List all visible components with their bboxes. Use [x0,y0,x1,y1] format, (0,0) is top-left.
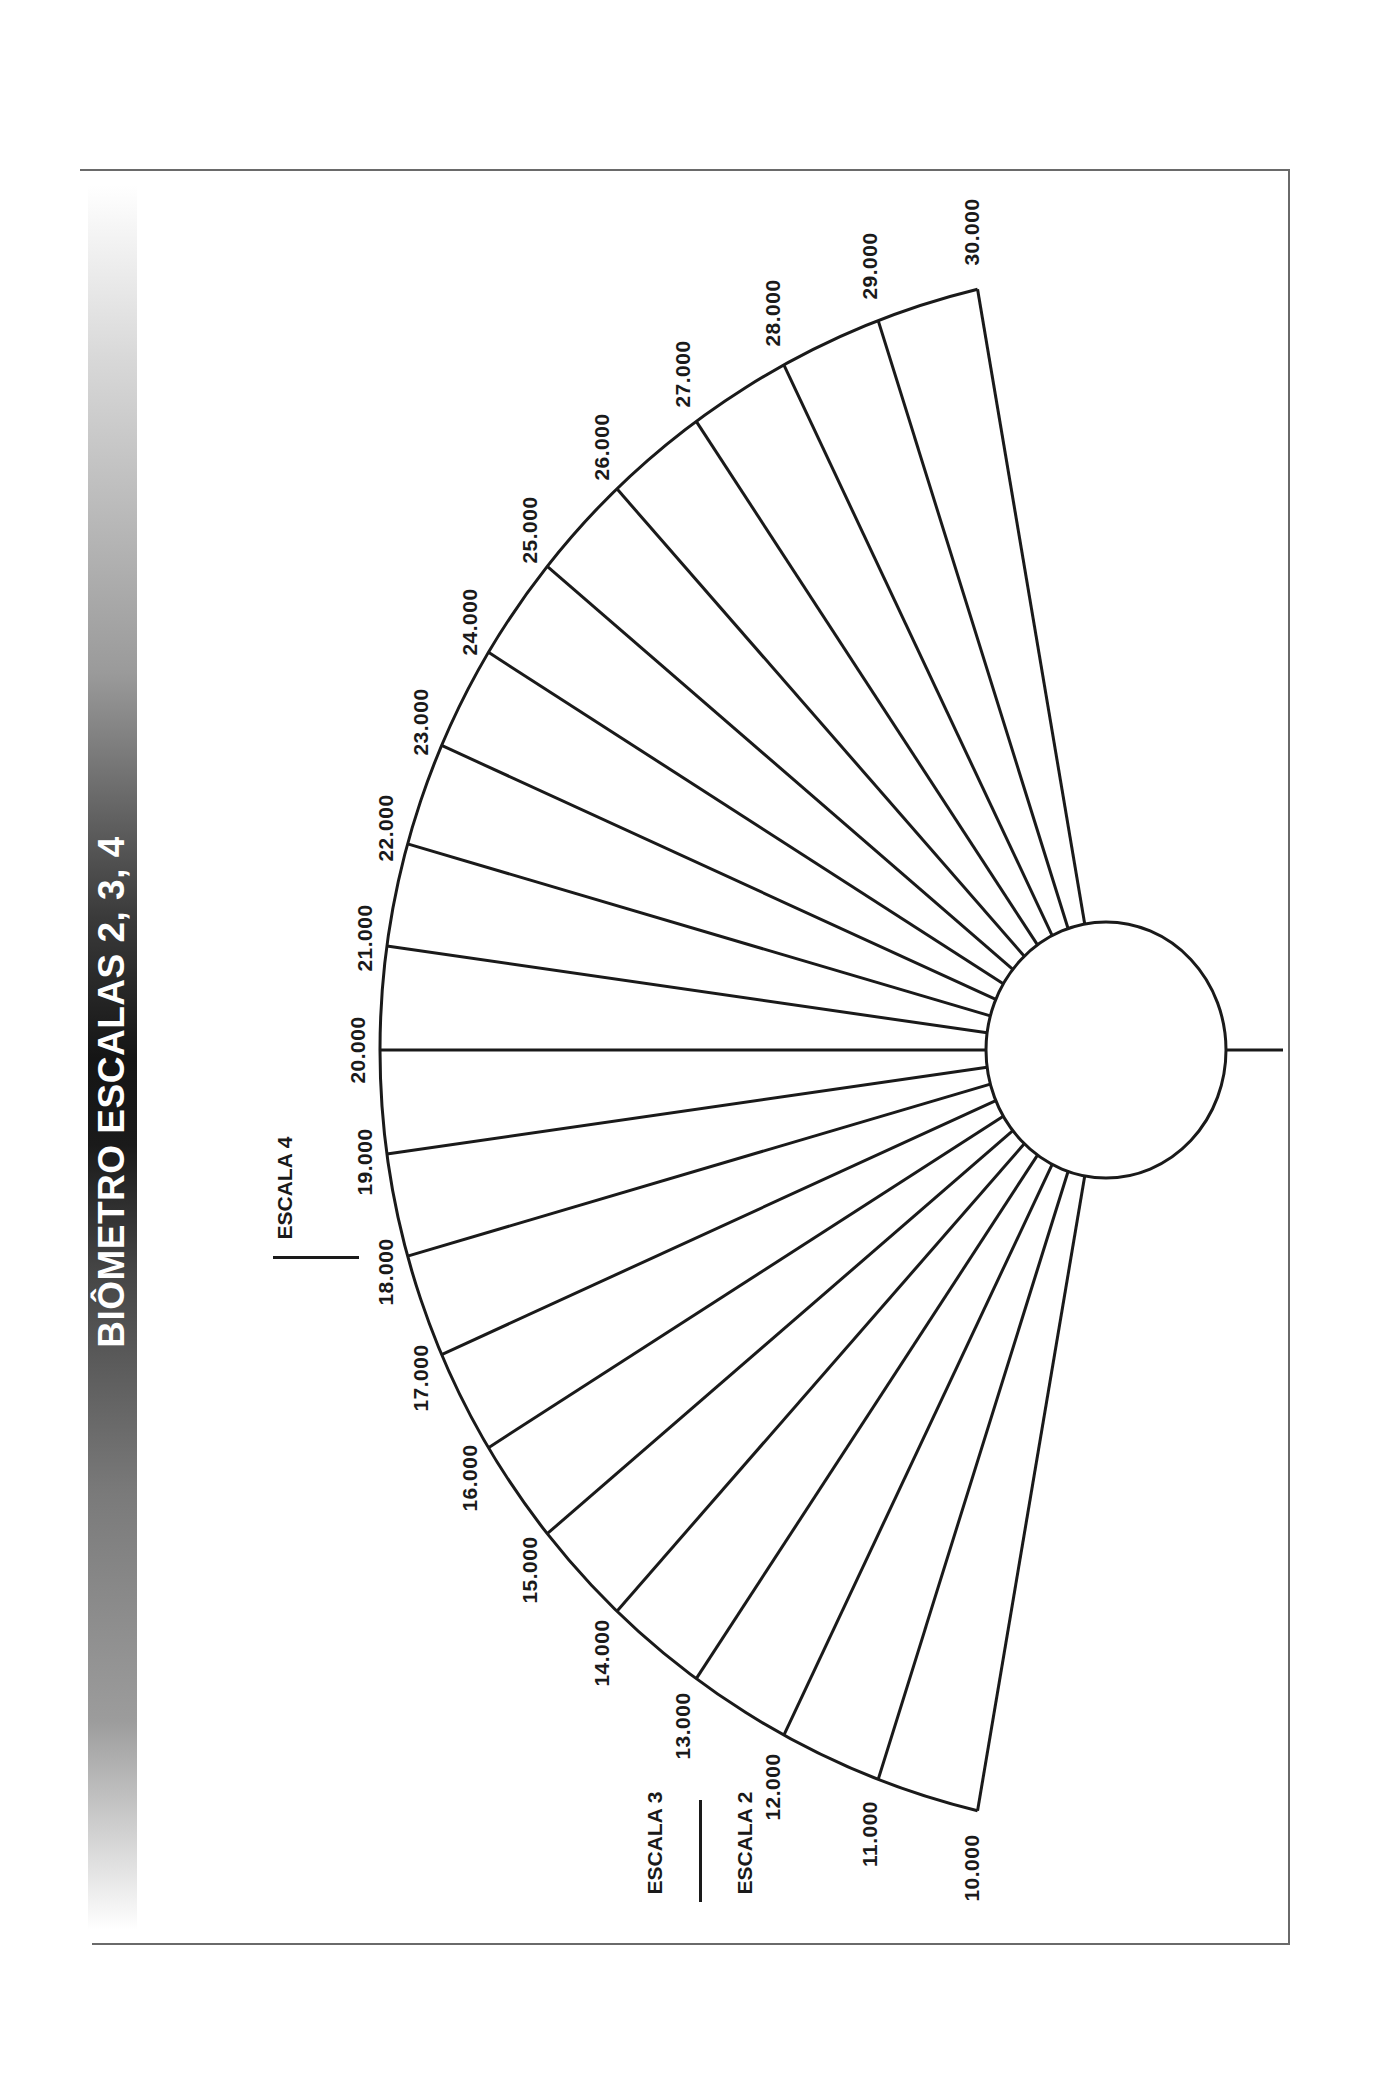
legend-escala-3-marker [699,1800,702,1902]
dial-spoke [617,489,1024,956]
legend-escala-3: ESCALA 3 [643,1791,667,1894]
scale-label: 20.000 [346,1016,370,1083]
scale-label: 11.000 [858,1801,882,1867]
scale-label: 29.000 [858,232,882,299]
scale-label: 28.000 [761,280,785,347]
scale-label: 19.000 [353,1128,377,1195]
dial-spoke [978,1176,1085,1811]
scale-label: 21.000 [353,905,377,972]
scale-label: 22.000 [374,795,398,862]
legend-escala-4-marker [273,1256,359,1259]
dial-hub-circle [986,922,1226,1178]
scale-label: 30.000 [960,198,984,265]
dial-spoke [442,745,996,999]
scale-label: 27.000 [671,340,695,407]
dial-spoke [696,421,1037,945]
dial-spoke [488,1116,1003,1447]
dial-spoke [442,1101,996,1355]
legend-escala-2: ESCALA 2 [733,1791,757,1894]
scale-label: 23.000 [409,689,433,756]
dial-spoke [617,1144,1024,1611]
biometer-dial [0,0,1376,2081]
scale-label: 26.000 [590,413,614,480]
scale-label: 13.000 [671,1692,695,1759]
scale-label: 17.000 [409,1344,433,1411]
dial-spoke [696,1155,1037,1679]
scale-label: 25.000 [518,496,542,563]
legend-escala-4: ESCALA 4 [273,1136,297,1239]
dial-spokes [380,289,1085,1810]
dial-spoke [488,652,1003,983]
scale-label: 10.000 [960,1834,984,1901]
scale-label: 24.000 [458,589,482,656]
scale-label: 14.000 [590,1620,614,1687]
dial-spoke [978,289,1085,924]
scale-label: 15.000 [518,1536,542,1603]
scale-label: 18.000 [374,1238,398,1305]
dial-spoke [547,1131,1013,1534]
dial-spoke [547,566,1013,969]
scale-label: 12.000 [761,1753,785,1820]
scale-label: 16.000 [458,1444,482,1511]
